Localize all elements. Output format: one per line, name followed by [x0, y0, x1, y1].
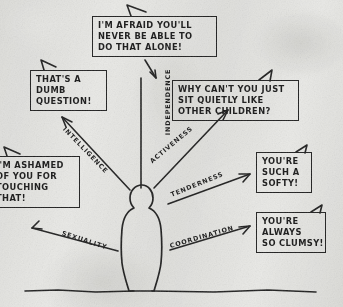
speech-balloon-tenderness[interactable]: YOU'RE SUCH A SOFTY!	[256, 152, 312, 193]
balloon-tail-independence	[127, 5, 146, 16]
speech-balloon-sexuality[interactable]: I'M ASHAMED OF YOU FOR TOUCHING THAT!	[0, 156, 80, 208]
balloon-line: YOU'RE	[262, 156, 307, 167]
ground-line-right	[152, 290, 316, 292]
child-silhouette	[121, 185, 162, 291]
balloon-line: YOU'RE	[262, 216, 321, 227]
balloon-line: THAT!	[0, 193, 75, 204]
balloon-line: I'M AFRAID YOU'LL	[98, 20, 212, 31]
diagram-canvas: I'M AFRAID YOU'LL NEVER BE ABLE TO DO TH…	[0, 0, 343, 307]
balloon-line: DUMB	[36, 85, 102, 96]
speech-balloon-independence[interactable]: I'M AFRAID YOU'LL NEVER BE ABLE TO DO TH…	[92, 16, 217, 57]
speech-balloon-coordination[interactable]: YOU'RE ALWAYS SO CLUMSY!	[256, 212, 326, 253]
arrow-sexuality-head	[32, 221, 42, 229]
balloon-line: I'M ASHAMED	[0, 160, 75, 171]
balloon-line: OF YOU FOR	[0, 171, 75, 182]
balloon-line: ALWAYS	[262, 227, 321, 238]
arrow-label-independence: INDEPENDENCE	[164, 69, 172, 136]
balloon-line: NEVER BE ABLE TO	[98, 31, 212, 42]
balloon-tail-sexuality	[4, 147, 20, 156]
balloon-line: TOUCHING	[0, 182, 75, 193]
balloon-line: THAT'S A	[36, 74, 102, 85]
balloon-line: SOFTY!	[262, 178, 307, 189]
ground-line-left	[25, 290, 134, 292]
speech-balloon-activeness[interactable]: WHY CAN'T YOU JUST SIT QUIETLY LIKE OTHE…	[172, 80, 299, 121]
balloon-line: SO CLUMSY!	[262, 238, 321, 249]
arrow-coordination-head	[239, 226, 250, 234]
balloon-line: SIT QUIETLY LIKE	[178, 95, 294, 106]
speech-balloon-intelligence[interactable]: THAT'S A DUMB QUESTION!	[30, 70, 107, 111]
balloon-line: QUESTION!	[36, 96, 102, 107]
arrow-top-short-head	[150, 70, 156, 78]
balloon-tail-intelligence	[41, 60, 56, 70]
balloon-line: DO THAT ALONE!	[98, 42, 212, 53]
balloon-line: SUCH A	[262, 167, 307, 178]
balloon-line: WHY CAN'T YOU JUST	[178, 84, 294, 95]
balloon-line: OTHER CHILDREN?	[178, 106, 294, 117]
